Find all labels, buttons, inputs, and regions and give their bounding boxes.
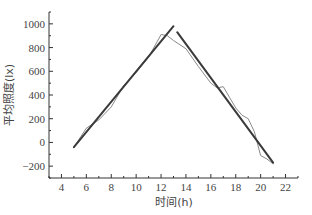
y-tick-label: 0 (40, 136, 46, 148)
x-tick-label: 12 (156, 181, 167, 193)
measured-line (74, 35, 273, 164)
x-tick-label: 16 (205, 181, 217, 193)
fit-line-1 (74, 26, 174, 147)
x-tick-label: 10 (131, 181, 143, 193)
chart: −2000200400600800100046810121416182022 时… (0, 0, 312, 215)
y-tick-label: 1000 (23, 18, 46, 30)
y-axis-label: 平均照度(lx) (2, 64, 16, 126)
y-tick-label: 800 (29, 42, 46, 54)
y-tick-label: 200 (29, 113, 46, 125)
y-tick-label: 600 (29, 65, 46, 77)
y-tick-label: 400 (29, 89, 46, 101)
series-group (74, 26, 273, 164)
axes: −2000200400600800100046810121416182022 (22, 12, 298, 193)
x-tick-label: 8 (109, 181, 115, 193)
x-tick-label: 4 (59, 181, 65, 193)
x-axis-label: 时间(h) (155, 196, 193, 209)
x-tick-label: 22 (280, 181, 291, 193)
fit-line-2 (177, 32, 273, 162)
x-tick-label: 6 (84, 181, 90, 193)
x-tick-label: 20 (255, 181, 267, 193)
y-tick-label: −200 (22, 160, 45, 172)
x-tick-label: 14 (180, 181, 192, 193)
x-tick-label: 18 (230, 181, 242, 193)
